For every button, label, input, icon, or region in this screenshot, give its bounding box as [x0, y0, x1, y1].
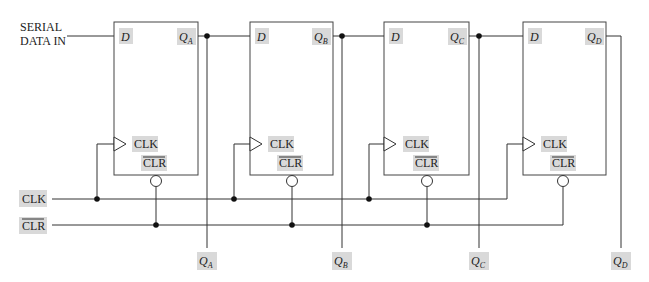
q-label: Q [314, 30, 323, 44]
serial-input-label-line1: SERIAL [20, 20, 62, 34]
output-qb-label: Q [334, 254, 343, 268]
junction-dot-icon [366, 196, 372, 202]
junction-dot-icon [424, 222, 430, 228]
q-sub: C [459, 37, 465, 46]
q-label: Q [587, 30, 596, 44]
clear-bubble-icon [287, 176, 298, 187]
flipflop-b: D QB CLK CLR [250, 22, 333, 187]
junction-dot-icon [153, 222, 159, 228]
output-qc-sub: C [480, 261, 486, 270]
flipflop-d: D QD CLK CLR [523, 22, 606, 187]
clear-bubble-icon [151, 176, 162, 187]
clr-bus-label: CLR [22, 219, 45, 233]
clear-bubble-icon [422, 176, 433, 187]
clr-label: CLR [143, 156, 166, 170]
clr-label: CLR [415, 156, 438, 170]
clk-label: CLK [405, 137, 429, 151]
serial-input-label-line2: DATA IN [20, 34, 66, 48]
output-qd-label: Q [613, 254, 622, 268]
clk-label: CLK [270, 137, 294, 151]
q-sub: B [323, 37, 328, 46]
shift-register-diagram: SERIAL DATA IN D QA CLK CLR D QB CLK CLR… [0, 0, 649, 282]
d-label: D [120, 30, 130, 44]
q-sub: A [187, 37, 193, 46]
output-qa-sub: A [207, 261, 213, 270]
output-qa-label: Q [199, 254, 208, 268]
d-label: D [256, 30, 266, 44]
output-qb-sub: B [343, 261, 348, 270]
clear-bubble-icon [558, 176, 569, 187]
junction-dot-icon [231, 196, 237, 202]
q-sub: D [595, 37, 602, 46]
flipflop-a: D QA CLK CLR [114, 22, 198, 187]
q-label: Q [179, 30, 188, 44]
junction-dot-icon [94, 196, 100, 202]
junction-dot-icon [204, 33, 210, 39]
output-qc-label: Q [471, 254, 480, 268]
junction-dot-icon [476, 33, 482, 39]
clk-label: CLK [543, 137, 567, 151]
clk-label: CLK [134, 137, 158, 151]
d-label: D [390, 30, 400, 44]
clr-label: CLR [279, 156, 302, 170]
clr-bus-wire [52, 187, 563, 225]
output-qd-sub: D [621, 261, 628, 270]
qd-output-wire [606, 36, 621, 248]
junction-dot-icon [289, 222, 295, 228]
clr-label: CLR [552, 156, 575, 170]
q-label: Q [450, 30, 459, 44]
d-label: D [529, 30, 539, 44]
clk-bus-label: CLK [22, 192, 46, 206]
junction-dot-icon [339, 33, 345, 39]
flipflop-c: D QC CLK CLR [384, 22, 469, 187]
